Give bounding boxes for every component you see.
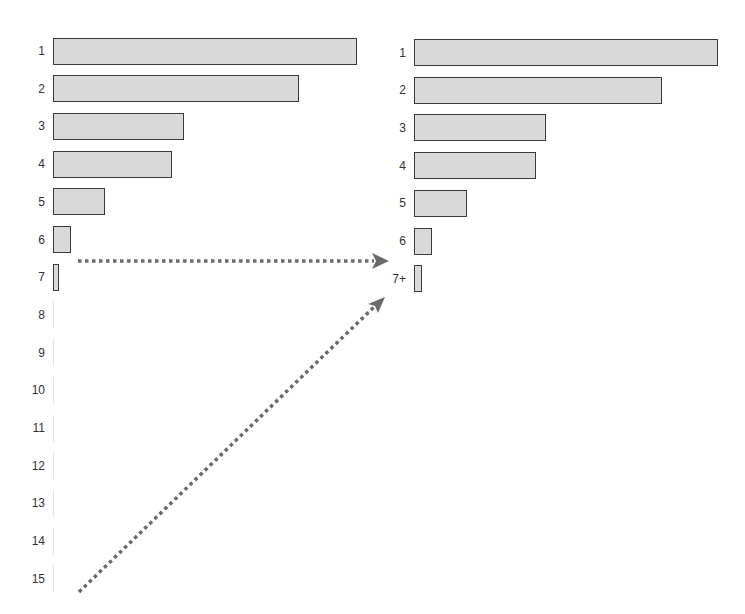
chart-canvas: 123456789101112131415 1234567+ [0, 0, 745, 614]
arrows-layer [0, 0, 745, 614]
arrow-row15-to-7plus [79, 297, 385, 592]
arrow-row7-to-7plus [78, 253, 389, 269]
